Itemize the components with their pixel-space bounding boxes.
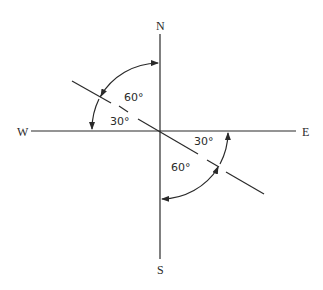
angle-label-se-60: 60°	[171, 161, 191, 174]
label-west: W	[17, 125, 29, 139]
label-north: N	[156, 19, 165, 33]
label-east: E	[302, 125, 309, 139]
angle-label-nw-60: 60°	[124, 91, 144, 104]
label-south: S	[157, 263, 164, 277]
angle-label-nw-30: 30°	[110, 115, 130, 128]
diagonal-line	[72, 81, 264, 194]
diagram-canvas: N S W E 60° 30° 30° 60°	[0, 0, 323, 290]
angle-label-se-30: 30°	[194, 135, 214, 148]
compass-diagram: N S W E 60° 30° 30° 60°	[0, 0, 323, 290]
